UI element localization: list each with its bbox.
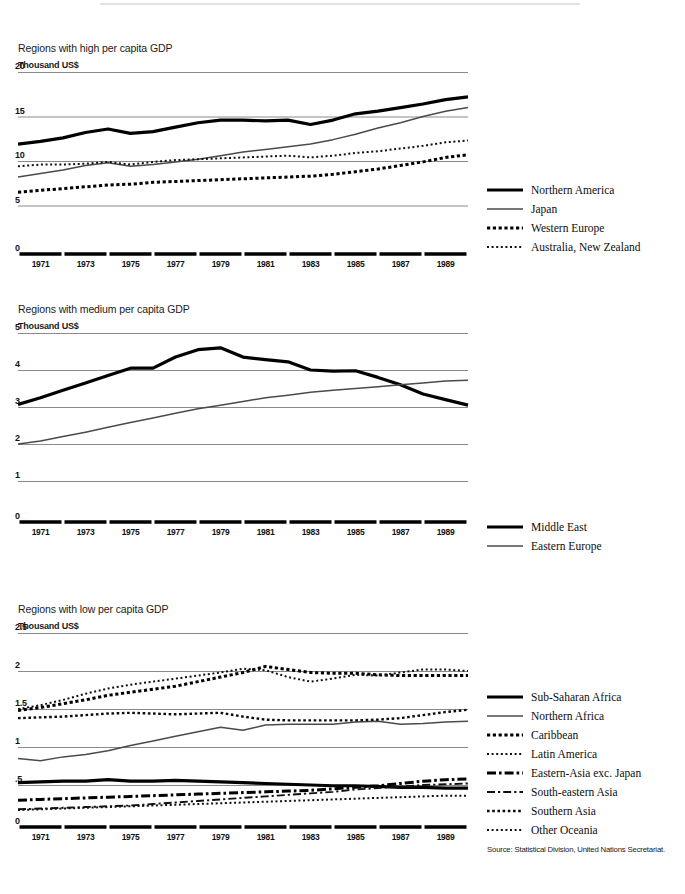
x-tick-label: 1973 — [66, 527, 106, 537]
y-tick-label: 0 — [15, 816, 20, 826]
legend-label: Northern America — [531, 184, 614, 196]
x-tick-label: 1975 — [111, 259, 151, 269]
legend-item[interactable]: Australia, New Zealand — [487, 237, 641, 256]
x-tick-label: 1975 — [111, 832, 151, 842]
legend-high-gdp: Northern AmericaJapanWestern EuropeAustr… — [487, 180, 641, 256]
x-tick-label: 1979 — [201, 259, 241, 269]
y-tick-label: 1 — [15, 470, 20, 480]
legend-label: Western Europe — [531, 222, 604, 234]
y-tick-label: 2.5 — [15, 622, 27, 632]
panel-high-gdp: Regions with high per capita GDP Thousan… — [0, 0, 685, 285]
x-tick-label: 1983 — [291, 832, 331, 842]
x-tick-label: 1979 — [201, 527, 241, 537]
legend-item[interactable]: South-eastern Asia — [487, 782, 641, 801]
legend-swatch-fine-dotted-icon — [487, 241, 523, 253]
x-tick-label: 1971 — [21, 832, 61, 842]
x-tick-label: 1981 — [246, 259, 286, 269]
legend-swatch-fine-dotted-icon — [487, 824, 523, 836]
series-line — [18, 721, 468, 761]
panel-medium-gdp: Regions with medium per capita GDP Thous… — [0, 295, 685, 580]
x-tick-label: 1987 — [381, 259, 421, 269]
series-line — [18, 141, 468, 167]
panel-unit-label: Thousand US$ — [18, 321, 79, 331]
x-tick-label: 1981 — [246, 832, 286, 842]
panel-title: Regions with medium per capita GDP — [18, 303, 190, 315]
legend-item[interactable]: Sub-Saharan Africa — [487, 687, 641, 706]
legend-label: Middle East — [531, 521, 587, 533]
x-tick-label: 1985 — [336, 527, 376, 537]
x-tick-label: 1975 — [111, 527, 151, 537]
series-line — [18, 348, 468, 405]
y-tick-label: 1 — [15, 736, 20, 746]
x-tick-label: 1981 — [246, 527, 286, 537]
legend-swatch-thick-solid-icon — [487, 691, 523, 703]
series-line — [18, 155, 468, 192]
legend-swatch-med-dotted-icon — [487, 805, 523, 817]
legend-item[interactable]: Latin America — [487, 744, 641, 763]
x-tick-label: 1989 — [426, 527, 466, 537]
chart-page: Regions with high per capita GDP Thousan… — [0, 0, 685, 894]
legend-swatch-thin-dashdot-icon — [487, 786, 523, 798]
legend-item[interactable]: Eastern-Asia exc. Japan — [487, 763, 641, 782]
y-tick-label: 0 — [15, 243, 20, 253]
y-tick-label: 10 — [15, 150, 24, 160]
series-line — [18, 669, 468, 709]
y-tick-label: 5 — [15, 322, 20, 332]
x-tick-label: 1971 — [21, 259, 61, 269]
series-line — [18, 380, 468, 444]
legend-item[interactable]: Japan — [487, 199, 641, 218]
legend-item[interactable]: Northern America — [487, 180, 641, 199]
x-tick-label: 1977 — [156, 832, 196, 842]
legend-item[interactable]: Northern Africa — [487, 706, 641, 725]
x-tick-label: 1983 — [291, 259, 331, 269]
panel-unit-label: Thousand US$ — [18, 621, 79, 631]
legend-swatch-thin-solid-icon — [487, 203, 523, 215]
legend-label: Eastern Europe — [531, 540, 602, 552]
legend-label: Eastern-Asia exc. Japan — [531, 767, 641, 779]
y-tick-label: 4 — [15, 359, 20, 369]
legend-label: Japan — [531, 203, 557, 215]
y-tick-label: 2 — [15, 433, 20, 443]
legend-label: Other Oceania — [531, 824, 598, 836]
y-tick-label: 15 — [15, 106, 24, 116]
legend-item[interactable]: Southern Asia — [487, 801, 641, 820]
x-tick-label: 1977 — [156, 259, 196, 269]
legend-item[interactable]: Caribbean — [487, 725, 641, 744]
y-tick-label: 1.5 — [15, 698, 27, 708]
legend-swatch-thin-solid-icon — [487, 710, 523, 722]
legend-label: Southern Asia — [531, 805, 596, 817]
legend-item[interactable]: Eastern Europe — [487, 536, 602, 555]
series-line — [18, 666, 468, 710]
legend-item[interactable]: Other Oceania — [487, 820, 641, 839]
y-tick-label: 0 — [15, 511, 20, 521]
y-tick-label: 3 — [15, 396, 20, 406]
legend-label: South-eastern Asia — [531, 786, 618, 798]
x-tick-label: 1977 — [156, 527, 196, 537]
y-tick-label: 5 — [15, 195, 20, 205]
x-tick-label: 1989 — [426, 832, 466, 842]
y-tick-label: 2 — [15, 660, 20, 670]
x-tick-label: 1971 — [21, 527, 61, 537]
x-tick-label: 1973 — [66, 259, 106, 269]
y-tick-label: .5 — [15, 774, 22, 784]
legend-item[interactable]: Middle East — [487, 517, 602, 536]
legend-label: Sub-Saharan Africa — [531, 691, 621, 703]
legend-swatch-thick-solid-icon — [487, 184, 523, 196]
x-tick-label: 1987 — [381, 832, 421, 842]
legend-swatch-thick-solid-icon — [487, 521, 523, 533]
legend-item[interactable]: Western Europe — [487, 218, 641, 237]
panel-title: Regions with low per capita GDP — [18, 603, 168, 615]
x-tick-label: 1987 — [381, 527, 421, 537]
source-note: Source: Statistical Division, United Nat… — [487, 845, 665, 854]
legend-label: Australia, New Zealand — [531, 241, 641, 253]
legend-swatch-bold-dotted-icon — [487, 729, 523, 741]
x-tick-label: 1979 — [201, 832, 241, 842]
x-tick-label: 1983 — [291, 527, 331, 537]
legend-swatch-fine-dotted-icon — [487, 748, 523, 760]
legend-medium-gdp: Middle EastEastern Europe — [487, 517, 602, 555]
x-tick-label: 1985 — [336, 259, 376, 269]
legend-label: Caribbean — [531, 729, 578, 741]
legend-swatch-thin-solid-icon — [487, 540, 523, 552]
panel-unit-label: Thousand US$ — [18, 60, 79, 70]
x-tick-label: 1989 — [426, 259, 466, 269]
